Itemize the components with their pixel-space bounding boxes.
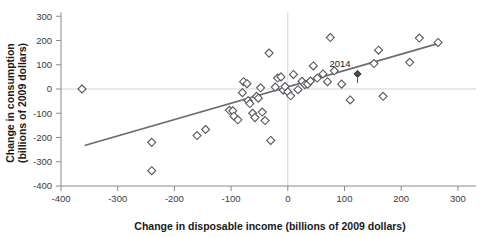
data-point-marker bbox=[375, 46, 383, 54]
highlighted-data-point bbox=[354, 70, 361, 77]
data-point-marker bbox=[294, 86, 302, 94]
y-tick-label: -400 bbox=[33, 180, 52, 191]
y-tick-label: -100 bbox=[33, 108, 52, 119]
x-axis-title: Change in disposable income (billions of… bbox=[134, 220, 405, 232]
x-tick-label: 100 bbox=[337, 193, 353, 204]
year-annotation-label: 2014 bbox=[329, 58, 350, 69]
data-point-marker bbox=[415, 34, 423, 42]
y-tick-label: 0 bbox=[47, 83, 52, 94]
data-point-marker bbox=[202, 125, 210, 133]
y-tick-label: -200 bbox=[33, 132, 52, 143]
scatter-chart-figure: -400-300-200-1000100200300 -400-300-200-… bbox=[0, 0, 484, 237]
y-tick-label: 300 bbox=[36, 11, 52, 22]
data-point-marker bbox=[193, 132, 201, 140]
data-point-marker bbox=[326, 34, 334, 42]
data-point-marker bbox=[309, 62, 317, 70]
data-point-marker bbox=[148, 167, 156, 175]
chart-axes bbox=[61, 12, 476, 186]
data-point-marker bbox=[257, 84, 265, 92]
zero-reference-lines bbox=[61, 12, 476, 186]
data-point-marker bbox=[406, 58, 414, 66]
data-point-marker bbox=[265, 49, 273, 57]
chart-canvas: -400-300-200-1000100200300 -400-300-200-… bbox=[0, 0, 484, 237]
x-tick-label: 0 bbox=[285, 193, 290, 204]
data-point-marker bbox=[267, 136, 275, 144]
x-tick-label: 200 bbox=[393, 193, 409, 204]
x-axis-tick-labels: -400-300-200-1000100200300 bbox=[51, 193, 465, 204]
data-point-marker bbox=[261, 117, 269, 125]
data-point-marker bbox=[238, 89, 246, 97]
axis-tick-marks bbox=[56, 16, 458, 191]
data-point-marker bbox=[338, 80, 346, 88]
x-tick-label: 300 bbox=[450, 193, 466, 204]
x-tick-label: -200 bbox=[165, 193, 184, 204]
x-tick-label: -300 bbox=[108, 193, 127, 204]
data-point-marker bbox=[379, 92, 387, 100]
data-points-group bbox=[78, 34, 442, 175]
x-tick-label: -400 bbox=[51, 193, 70, 204]
y-axis-title-line-2: (billions of 2009 dollars) bbox=[16, 43, 28, 163]
y-tick-label: 100 bbox=[36, 59, 52, 70]
x-tick-label: -100 bbox=[222, 193, 241, 204]
data-point-marker bbox=[258, 108, 266, 116]
y-axis-tick-labels: -400-300-200-1000100200300 bbox=[33, 11, 52, 192]
data-point-marker bbox=[346, 96, 354, 104]
data-point-marker bbox=[289, 70, 297, 78]
data-point-marker bbox=[323, 78, 331, 86]
data-point-marker bbox=[78, 85, 86, 93]
y-tick-label: -300 bbox=[33, 156, 52, 167]
y-tick-label: 200 bbox=[36, 35, 52, 46]
y-axis-title-line-1: Change in consumption bbox=[4, 43, 16, 163]
data-point-marker bbox=[148, 138, 156, 146]
